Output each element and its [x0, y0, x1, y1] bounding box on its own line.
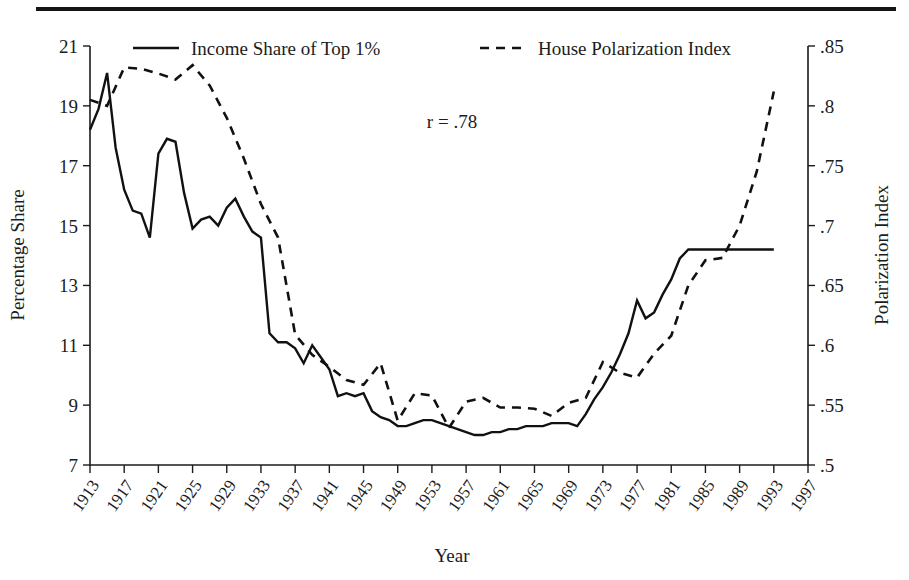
correlation-annotation: r = .78: [427, 111, 477, 132]
x-tick-label: 1985: [684, 476, 719, 515]
y2-axis-tick-labels: .5.55.6.65.7.75.8.85: [820, 36, 844, 476]
x-tick-label: 1953: [410, 476, 445, 515]
x-tick-label: 1945: [342, 476, 377, 515]
x-tick-label: 1981: [649, 476, 684, 515]
y2-tick-label: .5: [820, 455, 834, 476]
x-tick-label: 1989: [718, 476, 753, 515]
y-axis-title: Percentage Share: [7, 189, 28, 320]
legend-label: House Polarization Index: [538, 38, 732, 59]
y2-tick-label: .55: [820, 395, 844, 416]
x-tick-label: 1969: [547, 476, 582, 515]
y-tick-label: 19: [59, 96, 78, 117]
y-tick-label: 9: [69, 395, 79, 416]
x-tick-label: 1997: [786, 476, 821, 515]
y2-tick-label: .6: [820, 335, 834, 356]
y-tick-label: 13: [59, 275, 78, 296]
y2-tick-label: .7: [820, 216, 834, 237]
x-tick-label: 1913: [68, 476, 103, 515]
y-tick-label: 11: [60, 335, 78, 356]
axis-frame: [90, 46, 808, 465]
y-tick-label: 21: [59, 36, 78, 57]
x-tick-label: 1973: [581, 476, 616, 515]
y-tick-label: 7: [69, 455, 79, 476]
chart-legend: Income Share of Top 1%House Polarization…: [133, 38, 732, 59]
x-tick-label: 1937: [273, 476, 308, 515]
x-tick-label: 1921: [137, 476, 172, 515]
y2-tick-label: .8: [820, 96, 834, 117]
x-tick-label: 1941: [308, 476, 343, 515]
x-tick-label: 1929: [205, 476, 240, 515]
x-axis-title: Year: [434, 545, 470, 566]
y2-tick-label: .75: [820, 156, 844, 177]
line-chart: 79111315171921 .5.55.6.65.7.75.8.85 1913…: [0, 0, 909, 580]
x-tick-label: 1965: [513, 476, 548, 515]
x-tick-label: 1993: [752, 476, 787, 515]
x-tick-label: 1949: [376, 476, 411, 515]
y-tick-label: 15: [59, 216, 78, 237]
legend-label: Income Share of Top 1%: [191, 38, 380, 59]
x-tick-label: 1977: [615, 476, 650, 515]
x-tick-label: 1933: [239, 476, 274, 515]
x-tick-label: 1917: [102, 476, 137, 515]
x-axis-tick-labels: 1913191719211925192919331937194119451949…: [68, 476, 821, 515]
y-tick-label: 17: [59, 156, 78, 177]
x-tick-label: 1925: [171, 476, 206, 515]
y-axis-tick-labels: 79111315171921: [59, 36, 78, 476]
x-tick-label: 1957: [444, 476, 479, 515]
axes-group: [90, 46, 808, 465]
y2-axis-title: Polarization Index: [871, 185, 892, 325]
y2-tick-label: .65: [820, 275, 844, 296]
chart-figure: 79111315171921 .5.55.6.65.7.75.8.85 1913…: [0, 0, 909, 580]
x-tick-label: 1961: [478, 476, 513, 515]
y2-tick-label: .85: [820, 36, 844, 57]
